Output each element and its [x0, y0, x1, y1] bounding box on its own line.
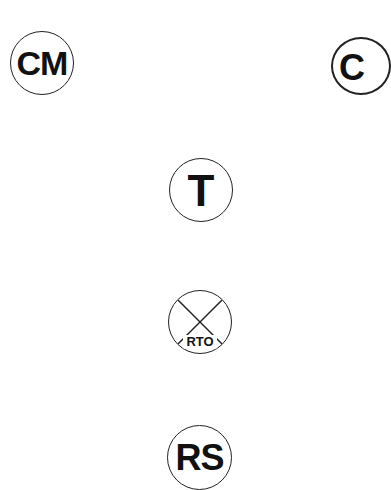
t-label: T — [170, 166, 232, 216]
rs-symbol: RS — [167, 425, 232, 490]
rto-symbol: RTO — [168, 290, 232, 354]
rto-label: RTO — [183, 335, 217, 349]
partial-label: C — [333, 47, 389, 89]
rs-label: RS — [168, 437, 231, 479]
cm-symbol: CM — [10, 31, 74, 95]
cm-label: CM — [11, 44, 73, 83]
partial-symbol: C — [331, 37, 391, 95]
t-symbol: T — [169, 158, 233, 222]
